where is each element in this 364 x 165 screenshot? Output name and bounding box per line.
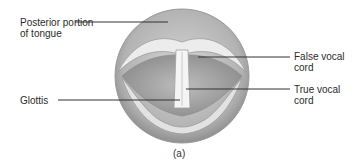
label-line: False vocal <box>294 51 345 62</box>
label-line: cord <box>294 95 340 106</box>
label-true-vocal-cord: True vocal cord <box>294 84 340 106</box>
label-line: True vocal <box>294 84 340 95</box>
label-line: Glottis <box>20 95 48 106</box>
label-glottis: Glottis <box>20 95 48 106</box>
label-line: cord <box>294 62 345 73</box>
label-false-vocal-cord: False vocal cord <box>294 51 345 73</box>
label-posterior-tongue: Posterior portion of tongue <box>20 17 93 39</box>
figure-caption: (a) <box>173 148 185 159</box>
label-line: of tongue <box>20 28 93 39</box>
label-line: Posterior portion <box>20 17 93 28</box>
